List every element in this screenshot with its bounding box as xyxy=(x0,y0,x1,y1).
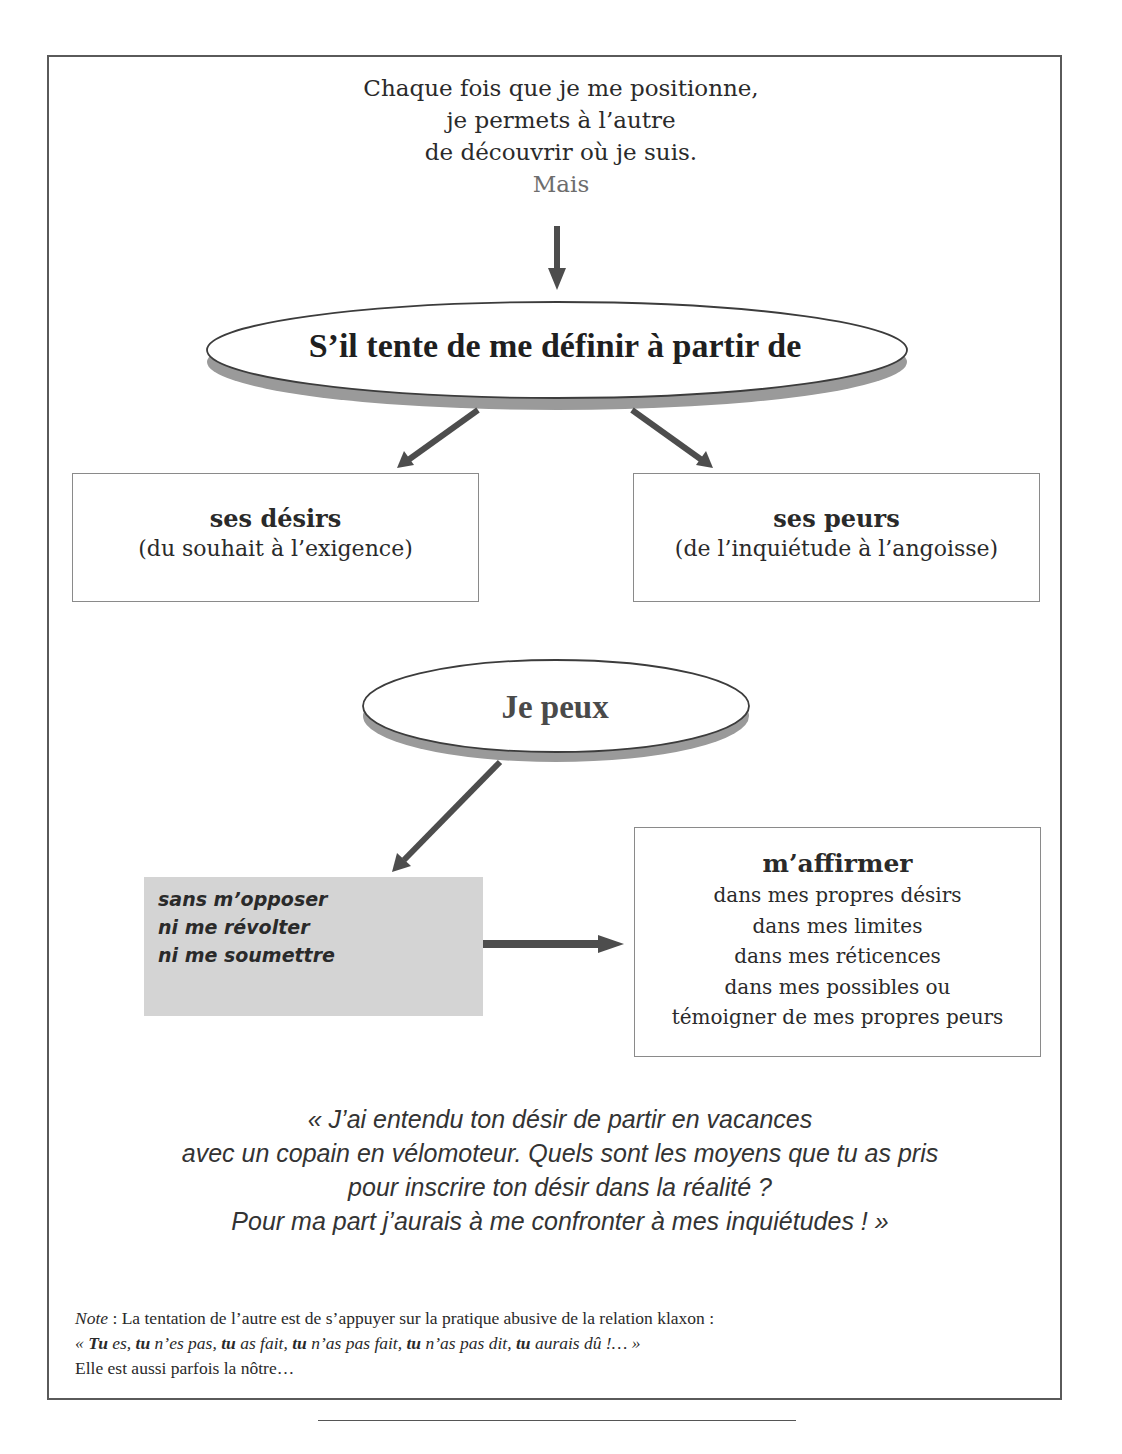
quote-line: Pour ma part j’aurais à me confronter à … xyxy=(60,1204,1060,1238)
grey-box-line: ni me révolter xyxy=(158,913,483,941)
emphasis-tu: tu xyxy=(516,1333,531,1353)
note-line-3: Elle est aussi parfois la nôtre… xyxy=(75,1356,1055,1381)
box-title: ses désirs xyxy=(73,504,478,534)
affirm-line: dans mes propres désirs xyxy=(635,880,1040,911)
box-title: ses peurs xyxy=(634,504,1039,534)
box-ses-peurs: ses peurs (de l’inquiétude à l’angoisse) xyxy=(633,473,1040,602)
box-m-affirmer: m’affirmer dans mes propres désirs dans … xyxy=(634,827,1041,1057)
emphasis-tu: tu xyxy=(292,1333,307,1353)
quote-line: « J’ai entendu ton désir de partir en va… xyxy=(60,1102,1060,1136)
arrow-right-diagonal-icon xyxy=(632,410,713,468)
note-fragment: n’es pas, xyxy=(150,1333,221,1353)
ellipse-bottom-label: Je peux xyxy=(362,689,748,726)
emphasis-tu: Tu xyxy=(88,1333,108,1353)
footer-rule xyxy=(318,1420,796,1421)
arrow-to-grey-box-icon xyxy=(392,762,500,872)
ellipse-top-label: S’il tente de me définir à partir de xyxy=(205,327,905,365)
box-subtitle: (de l’inquiétude à l’angoisse) xyxy=(634,534,1039,564)
note-label: Note xyxy=(75,1308,108,1328)
affirm-line: dans mes réticences xyxy=(635,941,1040,972)
note-fragment: n’as pas dit, xyxy=(421,1333,516,1353)
note-fragment: n’as pas fait, xyxy=(307,1333,407,1353)
grey-box-sans-opposer: sans m’opposer ni me révolter ni me soum… xyxy=(144,877,483,1016)
affirm-line: dans mes possibles ou xyxy=(635,972,1040,1003)
emphasis-tu: tu xyxy=(221,1333,236,1353)
box-title: m’affirmer xyxy=(635,848,1040,880)
emphasis-tu: tu xyxy=(406,1333,421,1353)
affirm-line: dans mes limites xyxy=(635,911,1040,942)
affirm-line: témoigner de mes propres peurs xyxy=(635,1002,1040,1033)
box-ses-desirs: ses désirs (du souhait à l’exigence) xyxy=(72,473,479,602)
grey-box-line: sans m’opposer xyxy=(158,885,483,913)
grey-box-line: ni me soumettre xyxy=(158,941,483,969)
arrow-left-diagonal-icon xyxy=(397,410,478,468)
quote-line: pour inscrire ton désir dans la réalité … xyxy=(60,1170,1060,1204)
note-fragment: aurais dû !… » xyxy=(531,1333,641,1353)
note-fragment: as fait, xyxy=(236,1333,292,1353)
box-subtitle: (du souhait à l’exigence) xyxy=(73,534,478,564)
note-klaxon-examples: « Tu es, tu n’es pas, tu as fait, tu n’a… xyxy=(75,1333,640,1353)
example-quote: « J’ai entendu ton désir de partir en va… xyxy=(60,1102,1060,1238)
arrow-down-icon xyxy=(548,226,566,290)
note-block: Note : La tentation de l’autre est de s’… xyxy=(75,1306,1055,1381)
arrow-right-icon xyxy=(483,935,624,953)
note-line-2: « Tu es, tu n’es pas, tu as fait, tu n’a… xyxy=(75,1331,1055,1356)
note-fragment: es, xyxy=(108,1333,136,1353)
emphasis-tu: tu xyxy=(136,1333,151,1353)
note-line-1: Note : La tentation de l’autre est de s’… xyxy=(75,1306,1055,1331)
note-text: : La tentation de l’autre est de s’appuy… xyxy=(108,1308,714,1328)
quote-line: avec un copain en vélomoteur. Quels sont… xyxy=(60,1136,1060,1170)
note-fragment: « xyxy=(75,1333,88,1353)
